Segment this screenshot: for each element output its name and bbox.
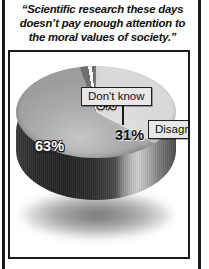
figure-title: “Scientific research these days doesn’t …: [9, 2, 196, 45]
poll-result-figure: “Scientific research these days doesn’t …: [0, 0, 209, 269]
title-line-1: “Scientific research these days: [9, 2, 196, 16]
pie-chart-panel: 6% 31% 63% Don't know Disagree Agree: [8, 50, 190, 259]
callout-label-dont-know[interactable]: Don't know: [81, 87, 152, 106]
title-line-3: the moral values of society.”: [9, 30, 196, 44]
callout-label-disagree[interactable]: Disagree: [148, 120, 190, 139]
leader-line-dont-know: [122, 105, 124, 125]
data-label-disagree: 31%: [115, 127, 144, 143]
left-border-rule: [2, 0, 5, 269]
data-label-agree: 63%: [35, 138, 64, 154]
title-line-2: doesn’t pay enough attention to: [9, 16, 196, 30]
right-border-rule: [198, 0, 201, 269]
